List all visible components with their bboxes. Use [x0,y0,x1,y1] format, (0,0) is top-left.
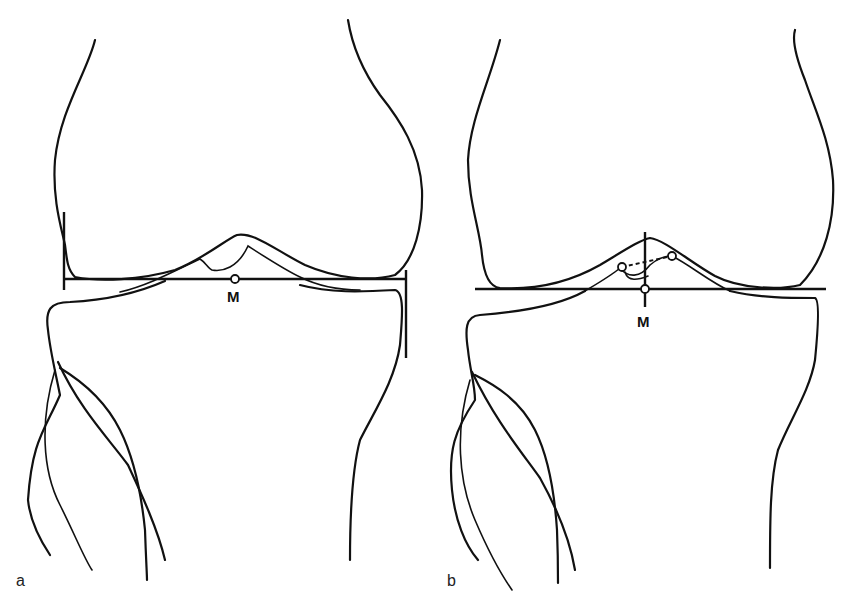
fibula-curve-a2 [58,362,165,560]
panel-b: M b [447,30,833,590]
tibia-shaft-left-a [45,370,92,570]
tibia-outline-b [451,291,585,560]
knee-diagram-figure: M a M b [0,0,859,609]
fibula-curve-a [60,368,147,580]
fibula-curve-b [475,375,558,583]
femur-outline-b [468,30,833,288]
midpoint-label-a: M [227,288,240,305]
tibia-plateau-b [730,291,818,568]
midpoint-marker-a [231,275,239,283]
panel-a: M a [16,20,422,589]
lateral-eminence-marker-b [668,252,676,260]
midpoint-label-b: M [637,313,650,330]
tibia-outline-a [28,281,165,555]
panel-label-b: b [447,572,456,589]
fibula-curve-b2 [472,372,575,570]
midpoint-marker-b [641,285,649,293]
femur-outline-a [54,20,422,280]
panel-label-a: a [16,572,25,589]
eminence-dashed-line-b [622,256,672,267]
medial-eminence-marker-b [618,263,626,271]
tibia-plateau-a [300,285,402,560]
